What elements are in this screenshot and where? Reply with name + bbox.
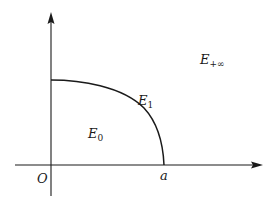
x-tick-label-a: a — [160, 169, 168, 182]
origin-label: O — [37, 172, 48, 185]
region-label-e-plus-infinity: E+∞ — [200, 53, 225, 69]
diagram-canvas: O a E0 E1 E+∞ — [0, 0, 275, 204]
region-label-e1: E1 — [138, 94, 153, 110]
region-label-e0: E0 — [88, 127, 103, 143]
